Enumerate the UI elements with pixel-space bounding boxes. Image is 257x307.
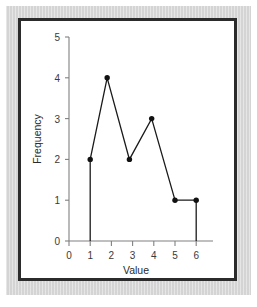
data-series	[88, 75, 199, 241]
x-tick-marks	[69, 241, 196, 246]
data-point-3[interactable]	[149, 116, 154, 121]
x-tick-label-5: 5	[172, 250, 178, 261]
y-axis-title: Frequency	[31, 113, 43, 163]
x-tick-labels: 0 1 2 3 4 5 6	[66, 250, 199, 261]
y-tick-marks	[65, 37, 69, 241]
x-tick-label-2: 2	[109, 250, 115, 261]
chart-canvas: 5 4 3 2 1 0 0 1 2 3 4 5 6 Value Frequenc…	[21, 21, 234, 278]
figure-frame: 5 4 3 2 1 0 0 1 2 3 4 5 6 Value Frequenc…	[18, 18, 237, 281]
y-tick-label-0: 0	[54, 236, 60, 247]
x-tick-label-4: 4	[151, 250, 157, 261]
x-tick-label-3: 3	[130, 250, 136, 261]
data-point-4[interactable]	[172, 198, 177, 203]
x-tick-label-1: 1	[87, 250, 93, 261]
data-point-0[interactable]	[88, 157, 93, 162]
x-tick-label-0: 0	[66, 250, 72, 261]
y-tick-label-4: 4	[54, 73, 60, 84]
y-tick-label-1: 1	[54, 195, 60, 206]
data-point-1[interactable]	[104, 75, 109, 80]
y-tick-label-3: 3	[54, 114, 60, 125]
y-tick-label-2: 2	[54, 154, 60, 165]
y-tick-label-5: 5	[54, 32, 60, 43]
figure-root: 5 4 3 2 1 0 0 1 2 3 4 5 6 Value Frequenc…	[0, 0, 257, 307]
data-point-2[interactable]	[127, 157, 132, 162]
y-tick-labels: 5 4 3 2 1 0	[54, 32, 60, 247]
data-point-5[interactable]	[194, 198, 199, 203]
x-tick-label-6: 6	[193, 250, 199, 261]
data-polyline	[90, 78, 196, 200]
x-axis-title: Value	[123, 264, 149, 276]
